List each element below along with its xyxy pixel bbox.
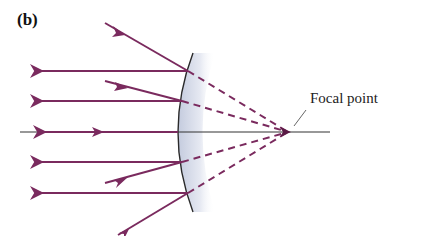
convex-mirror-diagram [0,0,422,236]
focal-label-leader [294,110,306,126]
rays [37,23,188,235]
focal-point-label: Focal point [310,90,378,107]
panel-label: (b) [17,10,38,30]
incident-ray-5 [118,193,188,235]
